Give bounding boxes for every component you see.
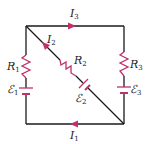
battery-e1-icon <box>19 88 33 94</box>
arrow-i1-icon <box>70 121 78 128</box>
diagonal-wire-mid <box>76 76 83 83</box>
label-i2: I2 <box>46 33 56 47</box>
resistor-r3-icon <box>120 52 128 76</box>
label-r2: R2 <box>73 54 87 68</box>
circuit-diagram: I3 I1 I2 R1 R2 R3 ℰ1 ℰ2 ℰ3 <box>0 0 150 144</box>
label-r1: R1 <box>6 60 20 74</box>
label-i3: I3 <box>69 7 79 21</box>
label-e3: ℰ3 <box>130 83 141 97</box>
label-e2: ℰ2 <box>75 92 86 106</box>
arrow-i3-icon <box>68 23 76 30</box>
battery-e3-icon <box>117 87 131 93</box>
label-e1: ℰ1 <box>7 83 18 97</box>
label-i1: I1 <box>69 129 79 143</box>
label-r3: R3 <box>129 58 143 72</box>
resistor-r1-icon <box>22 55 30 78</box>
diagonal-wire-lower <box>88 88 124 124</box>
